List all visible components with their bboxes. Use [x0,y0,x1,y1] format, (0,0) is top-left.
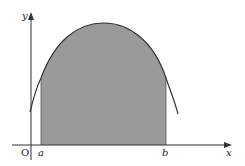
shaded-area [41,23,166,145]
b-label: b [162,147,168,158]
y-axis-label: y [21,10,28,21]
x-axis-label: x [226,147,232,158]
area-under-curve-diagram: y x O a b [0,0,245,166]
y-axis-arrow-icon [28,12,34,20]
a-label: a [38,147,44,158]
origin-label: O [21,147,29,158]
